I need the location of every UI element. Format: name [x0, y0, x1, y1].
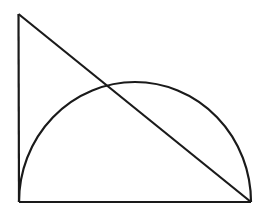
- triangle-left-side: [19, 14, 20, 202]
- semicircle-arc: [19, 82, 251, 202]
- triangle-hypotenuse: [19, 14, 252, 202]
- geometry-diagram: [0, 0, 267, 215]
